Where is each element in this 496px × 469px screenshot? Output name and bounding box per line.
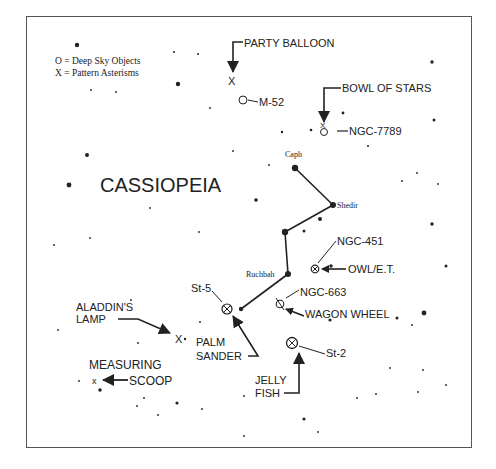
bowl-of-stars-label: BOWL OF STARS xyxy=(342,82,431,94)
st2-label: St-2 xyxy=(326,347,346,359)
ngc7789-star xyxy=(310,129,313,132)
legend-deep-sky: O = Deep Sky Objects xyxy=(55,56,141,66)
ngc451-label: NGC-451 xyxy=(337,235,383,247)
owl-et-label: OWL/E.T. xyxy=(348,263,395,275)
star-chart: O = Deep Sky Objects X = Pattern Asteris… xyxy=(0,0,496,469)
ngc7789-label: NGC-7789 xyxy=(349,125,402,137)
aladdins-lamp-marker: X xyxy=(175,333,183,345)
wagon-wheel-label: WAGON WHEEL xyxy=(305,308,390,320)
constellation-title: CASSIOPEIA xyxy=(100,174,222,196)
aladdins-lamp-label-2: LAMP xyxy=(76,313,106,325)
st5-label: St-5 xyxy=(191,282,211,294)
measuring-scoop-marker: x xyxy=(92,376,97,386)
aladdins-lamp-label-1: ALADDIN'S xyxy=(76,301,133,313)
palm-sander-label-2: SANDER xyxy=(196,350,242,362)
star-label-caph: Caph xyxy=(285,150,302,159)
star-label-ruchbah: Ruchbah xyxy=(246,270,274,279)
party-balloon-label: PARTY BALLOON xyxy=(244,37,335,49)
m52-label: M-52 xyxy=(259,96,284,108)
aladdins-lamp-star xyxy=(184,338,186,340)
measuring-scoop-label-2: SCOOP xyxy=(129,374,172,388)
jelly-fish-label-2: FISH xyxy=(255,387,280,399)
party-balloon-marker: X xyxy=(228,75,236,87)
legend-asterisms: X = Pattern Asterisms xyxy=(55,68,139,78)
jelly-fish-label-1: JELLY xyxy=(255,374,287,386)
palm-sander-label-1: PALM xyxy=(196,336,225,348)
ngc663-label: NGC-663 xyxy=(300,286,346,298)
star-label-shedir: Shedir xyxy=(337,201,358,210)
measuring-scoop-label-1: MEASURING xyxy=(89,358,162,372)
